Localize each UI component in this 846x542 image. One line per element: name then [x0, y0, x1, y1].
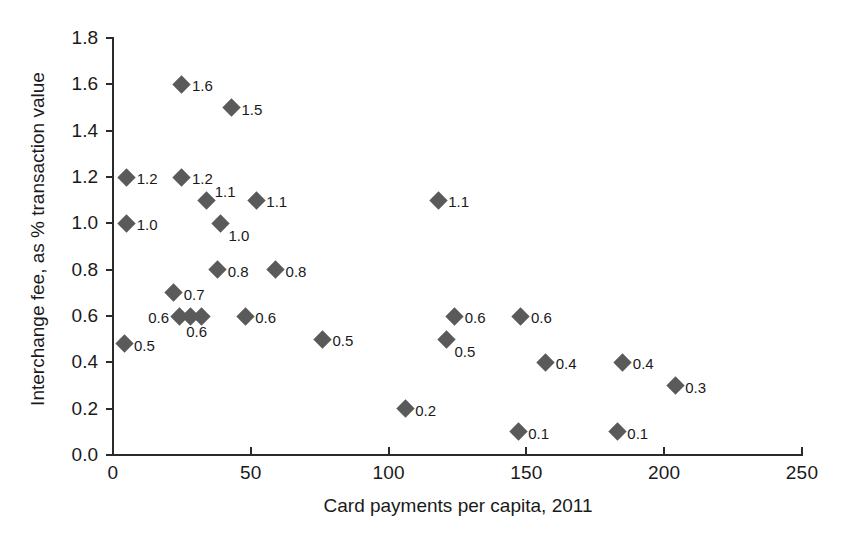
x-tick-label: 100 — [372, 462, 404, 484]
x-tick-label: 250 — [786, 462, 818, 484]
diamond-marker-icon — [118, 168, 136, 186]
diamond-marker-icon — [222, 98, 240, 116]
diamond-marker-icon — [211, 214, 229, 232]
data-point-label: 0.1 — [627, 426, 648, 441]
diamond-marker-icon — [429, 191, 447, 209]
x-axis-title: Card payments per capita, 2011 — [113, 495, 803, 517]
data-point-label: 1.2 — [137, 171, 158, 186]
diamond-marker-icon — [396, 399, 414, 417]
diamond-marker-icon — [115, 335, 133, 353]
y-axis-title: Interchange fee, as % transaction value — [27, 29, 49, 449]
x-tick-label: 200 — [648, 462, 680, 484]
x-tick-label: 0 — [108, 462, 119, 484]
diamond-marker-icon — [536, 353, 554, 371]
data-point-label: 1.6 — [192, 78, 213, 93]
data-point-label: 0.8 — [228, 264, 249, 279]
diamond-marker-icon — [437, 330, 455, 348]
data-point-label: 0.5 — [134, 338, 155, 353]
diamond-marker-icon — [608, 423, 626, 441]
data-point-label: 1.1 — [266, 194, 287, 209]
data-point-label: 0.4 — [556, 356, 577, 371]
diamond-marker-icon — [247, 191, 265, 209]
data-point-label: 1.1 — [448, 194, 469, 209]
diamond-marker-icon — [173, 75, 191, 93]
diamond-marker-icon — [509, 423, 527, 441]
diamond-marker-icon — [164, 284, 182, 302]
diamond-marker-icon — [614, 353, 632, 371]
data-point-label: 0.2 — [415, 403, 436, 418]
data-point-label: 0.5 — [332, 333, 353, 348]
data-point-label: 0.4 — [633, 356, 654, 371]
data-point-label: 1.0 — [228, 228, 249, 243]
diamond-marker-icon — [666, 376, 684, 394]
diamond-marker-icon — [118, 214, 136, 232]
plot-area: 1.21.00.50.71.20.60.61.61.10.81.01.50.61… — [113, 38, 802, 455]
diamond-marker-icon — [512, 307, 530, 325]
x-tick-label: 50 — [240, 462, 262, 484]
data-point-label: 0.6 — [148, 310, 169, 325]
data-point-label: 0.8 — [286, 264, 307, 279]
data-point-label: 0.5 — [454, 344, 475, 359]
scatter-chart: 050100150200250 0.00.20.40.60.81.01.21.4… — [0, 0, 846, 542]
data-point-label: 0.6 — [531, 310, 552, 325]
data-point-label: 1.5 — [242, 102, 263, 117]
data-point-label: 1.2 — [192, 171, 213, 186]
data-point-label: 0.1 — [528, 426, 549, 441]
data-point-label: 0.7 — [184, 287, 205, 302]
diamond-marker-icon — [198, 191, 216, 209]
diamond-marker-icon — [209, 260, 227, 278]
data-point-label: 0.6 — [465, 310, 486, 325]
data-point-label: 0.6 — [255, 310, 276, 325]
data-point-label: 0.3 — [685, 380, 706, 395]
diamond-marker-icon — [446, 307, 464, 325]
diamond-marker-icon — [236, 307, 254, 325]
data-point-label: 0.6 — [186, 324, 207, 339]
diamond-marker-icon — [173, 168, 191, 186]
x-tick-label: 150 — [510, 462, 542, 484]
diamond-marker-icon — [313, 330, 331, 348]
diamond-marker-icon — [266, 260, 284, 278]
data-point-label: 1.0 — [137, 217, 158, 232]
data-point-label: 1.1 — [215, 184, 236, 199]
